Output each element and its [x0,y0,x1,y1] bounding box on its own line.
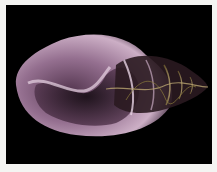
shell-photo [6,5,212,164]
shell-illustration [6,5,212,164]
